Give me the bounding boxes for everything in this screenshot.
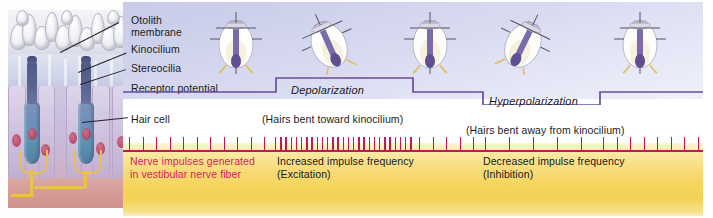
nerve-impulse-spike: [473, 137, 474, 150]
nerve-impulse-spike: [264, 137, 265, 150]
nerve-impulse-spike: [389, 137, 390, 150]
nerve-impulse-spike: [237, 137, 238, 150]
nerve-impulse-spike: [671, 137, 672, 150]
nerve-impulse-spike: [395, 137, 396, 150]
stereocilia-bundle-left: [27, 60, 37, 104]
label-otolith-membrane: Otolith membrane: [131, 14, 182, 38]
increased-frequency-text: Increased impulse frequency (Excitation): [277, 155, 414, 181]
nerve-impulse-spike-train: [123, 136, 703, 154]
nerve-impulse-spike: [410, 137, 411, 150]
hair-cell-nucleus-left: [28, 128, 37, 140]
nerve-impulse-spike: [533, 137, 534, 150]
nerve-impulse-spike: [433, 137, 434, 150]
nerve-impulse-spike: [400, 137, 401, 150]
nerve-impulse-spike: [285, 137, 286, 150]
nerve-impulse-spike: [129, 137, 130, 150]
label-hair-cell: Hair cell: [131, 113, 170, 125]
nerve-impulse-spike: [405, 137, 406, 150]
nerve-impulse-spike: [684, 137, 685, 150]
nerve-impulse-spike: [698, 137, 699, 150]
caption-bent-away: (Hairs bent away from kinocilium): [466, 124, 625, 136]
nerve-impulse-spike: [485, 137, 486, 150]
nerve-impulse-spike: [224, 137, 225, 150]
nerve-impulse-spike: [322, 137, 323, 150]
nerve-impulse-spike: [170, 137, 171, 150]
nerve-impulse-spike: [332, 137, 333, 150]
nerve-impulse-spike: [353, 137, 354, 150]
nerve-trunk-left: [30, 170, 33, 196]
nerve-impulse-spike: [301, 137, 302, 150]
nerve-impulse-spike: [557, 137, 558, 150]
receptor-potential-trace: [123, 60, 703, 105]
kinocilium-left: [27, 56, 37, 64]
nerve-trunk-right-exit: [34, 186, 86, 189]
nerve-impulse-spike: [156, 137, 157, 150]
nerve-impulse-spike: [419, 137, 420, 150]
nerve-impulse-spike: [337, 137, 338, 150]
nerve-impulse-spike: [630, 137, 631, 150]
nerve-impulse-spike: [581, 137, 582, 150]
figure-canvas: Otolith membrane Kinocilium Stereocilia …: [0, 0, 713, 218]
spike-baseline: [123, 150, 703, 152]
nerve-impulse-spike: [291, 137, 292, 150]
nerve-impulse-spike: [327, 137, 328, 150]
nerve-impulse-spike: [617, 137, 618, 150]
state-label-depolarization: Depolarization: [291, 84, 364, 96]
nerve-fiber-right: [74, 150, 102, 174]
nerve-fiber-left: [20, 150, 48, 174]
nerve-impulse-spike: [460, 137, 461, 150]
micrograph-body: [8, 10, 130, 208]
nerve-impulse-spike: [275, 137, 276, 150]
nerve-impulse-spike: [197, 137, 198, 150]
nerve-impulse-spike: [280, 137, 281, 150]
nerve-impulse-spike: [374, 137, 375, 150]
nerve-impulse-spike: [306, 137, 307, 150]
caption-bent-toward: (Hairs bent toward kinocilium): [262, 113, 403, 125]
state-label-hyperpolarization: Hyperpolarization: [489, 95, 578, 107]
nerve-impulse-spike: [183, 137, 184, 150]
nerve-impulse-spike: [210, 137, 211, 150]
kinocilium-right: [81, 56, 91, 64]
nerve-impulse-spike: [348, 137, 349, 150]
nerve-impulse-spike: [384, 137, 385, 150]
nerve-impulse-spike: [358, 137, 359, 150]
otolith-crystal-layer: [8, 10, 130, 56]
label-kinocilium: Kinocilium: [131, 43, 180, 55]
nerve-impulse-spike: [296, 137, 297, 150]
basement-membrane: [8, 178, 130, 208]
nerve-impulse-spike: [317, 137, 318, 150]
nerve-impulse-spike: [446, 137, 447, 150]
nerve-impulse-spike: [343, 137, 344, 150]
decreased-frequency-text: Decreased impulse frequency (Inhibition): [483, 155, 625, 181]
nerve-impulse-spike: [251, 137, 252, 150]
nerve-impulse-spike: [311, 137, 312, 150]
nerve-impulse-spike: [603, 137, 604, 150]
nerve-impulse-spike: [369, 137, 370, 150]
nerve-impulse-spike: [363, 137, 364, 150]
nerve-impulse-spike: [644, 137, 645, 150]
nerve-impulse-spike: [657, 137, 658, 150]
nerve-impulses-generated-text: Nerve impulses generated in vestibular n…: [130, 155, 255, 181]
nerve-trunk-left-exit: [10, 194, 34, 197]
nerve-impulse-spike: [379, 137, 380, 150]
hair-cell-nucleus-right: [82, 128, 91, 140]
nerve-impulse-spike: [509, 137, 510, 150]
nerve-impulse-spike: [143, 137, 144, 150]
hair-cell-micrograph: [0, 0, 130, 218]
